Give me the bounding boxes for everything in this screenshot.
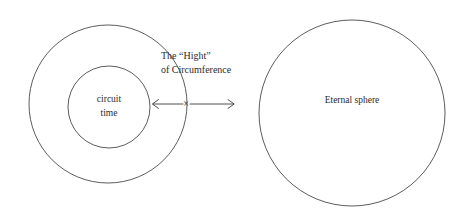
intersection-marker-icon: ×: [183, 98, 189, 110]
inner-circle-label-line1: circuit: [97, 94, 121, 104]
eternal-sphere-label: Eternal sphere: [325, 95, 380, 106]
inner-circle-label: circuit time: [97, 94, 121, 119]
inner-circle-label-line2: time: [97, 109, 121, 120]
diagram-vector-layer: [0, 0, 464, 216]
annotation-line2: of Circumference: [161, 64, 231, 76]
annotation-line1: The “Hight”: [161, 50, 211, 61]
diagram-canvas: × circuit time Eternal sphere The “Hight…: [0, 0, 464, 216]
height-of-circumference-annotation: The “Hight” of Circumference: [161, 50, 231, 76]
eternal-sphere-circle: [259, 20, 445, 206]
